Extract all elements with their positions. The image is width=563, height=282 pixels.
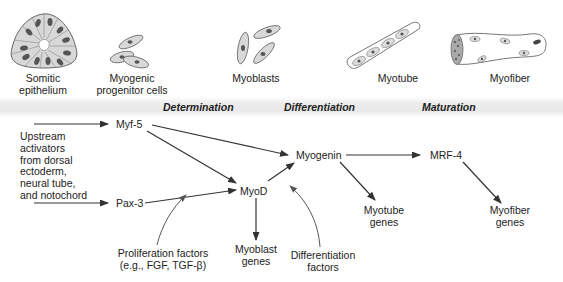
arrow-myod-myogenin: [268, 163, 294, 181]
stage-maturation: Maturation: [422, 101, 476, 113]
node-myogenin: Myogenin: [296, 149, 342, 161]
cell-label-myogenic-progenitor: Myogenic progenitor cells: [92, 72, 172, 96]
output-myoblast-genes: Myoblast genes: [224, 243, 288, 267]
cell-label-myotube: Myotube: [368, 72, 428, 84]
output-myofiber-genes: Myofiber genes: [478, 204, 542, 228]
pathway-arrows: [34, 124, 501, 240]
myotube-icon: [347, 22, 420, 68]
cell-label-somitic-epithelium: Somitic epithelium: [14, 72, 72, 96]
stage-differentiation: Differentiation: [284, 101, 355, 113]
arrow-myogenin-myotube-genes: [340, 162, 375, 200]
arrow-pax3-myod: [145, 190, 236, 203]
myofiber-icon: [451, 33, 546, 64]
myogenic-progenitor-icon: [109, 32, 150, 70]
myoblasts-icon: [235, 23, 281, 66]
upstream-activators-text: Upstream activators from dorsal ectoderm…: [20, 131, 87, 202]
stage-determination: Determination: [163, 101, 234, 113]
arrow-myf5-myogenin: [152, 125, 288, 155]
cell-label-myofiber: Myofiber: [480, 72, 540, 84]
arrow-myf5-myod: [147, 131, 236, 183]
output-myotube-genes: Myotube genes: [352, 204, 416, 228]
arrow-mrf4-myofiber-genes: [463, 162, 501, 203]
myogenesis-diagram: Somitic epithelium Myogenic progenitor c…: [0, 0, 563, 282]
node-myod: MyoD: [240, 185, 267, 197]
node-myf5: Myf-5: [116, 118, 142, 130]
differentiation-factors-label: Differentiation factors: [282, 249, 364, 273]
arrow-differentiation-myogenin: [290, 186, 320, 247]
arrow-proliferation-myod: [157, 195, 186, 245]
proliferation-factors-label: Proliferation factors (e.g., FGF, TGF-β): [108, 247, 218, 271]
somitic-epithelium-icon: [11, 14, 77, 68]
cell-label-myoblasts: Myoblasts: [226, 72, 286, 84]
node-mrf4: MRF-4: [430, 149, 462, 161]
node-pax3: Pax-3: [116, 197, 143, 209]
